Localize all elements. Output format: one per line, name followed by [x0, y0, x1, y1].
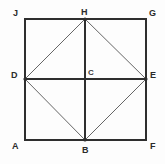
vertex-label-h: H [81, 8, 88, 17]
vertex-label-j: J [13, 9, 18, 18]
vertex-label-f: F [150, 142, 156, 151]
vertex-dot-e [144, 77, 147, 80]
vertex-label-b: B [82, 146, 89, 155]
rhombus-side-eb-line [85, 79, 146, 140]
vertex-label-g: G [149, 9, 156, 18]
rhombus-side-he-line [85, 19, 146, 79]
vertex-dot-h [83, 17, 86, 20]
vertex-label-a: A [12, 142, 19, 151]
rhombus-side-dh-line [25, 19, 85, 79]
vertex-label-c: C [88, 68, 94, 77]
geometry-figure: J H G D C E A B F [0, 0, 165, 164]
rhombus-side-bd-line [25, 79, 85, 140]
vertex-dot-b [83, 138, 86, 141]
vertex-label-d: D [11, 71, 18, 80]
geometry-drawing [0, 0, 165, 164]
vertex-dot-d [23, 77, 26, 80]
vertex-label-e: E [150, 71, 156, 80]
